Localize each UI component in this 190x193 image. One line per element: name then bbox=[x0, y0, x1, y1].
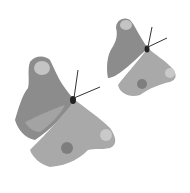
butterflies-illustration bbox=[0, 0, 190, 193]
butterfly-image bbox=[0, 0, 190, 193]
large-butterfly bbox=[15, 56, 115, 167]
small-butterfly bbox=[107, 18, 176, 96]
